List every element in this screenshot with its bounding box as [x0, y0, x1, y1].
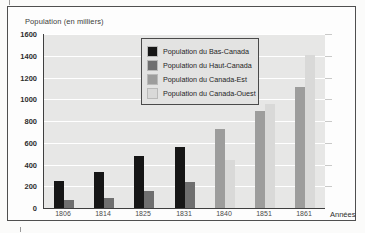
legend-label: Population du Canada-Ouest	[163, 89, 256, 98]
legend-item-canada-ouest: Population du Canada-Ouest	[148, 86, 252, 100]
bar	[104, 198, 114, 208]
legend: Population du Bas-Canada Population du H…	[141, 38, 259, 105]
y-tick-label: 200	[11, 183, 37, 190]
y-tick-label: 1200	[11, 75, 37, 82]
crop-mark-bottom	[20, 227, 21, 232]
x-tick-label: 1831	[167, 210, 201, 217]
right-tick	[325, 99, 332, 100]
chart-title: Population (en milliers)	[25, 17, 104, 26]
legend-label: Population du Haut-Canada	[163, 61, 252, 70]
right-tick	[325, 143, 332, 144]
y-tick-label: 800	[11, 118, 37, 125]
figure-box: Population (en milliers) 020040060080010…	[7, 6, 356, 221]
bar	[185, 182, 195, 208]
bar	[255, 111, 265, 208]
y-tick-label: 1000	[11, 96, 37, 103]
bar	[64, 200, 74, 208]
x-tick-label: 1825	[126, 210, 160, 217]
bar	[54, 181, 64, 208]
legend-swatch-haut-canada	[148, 61, 157, 70]
bar	[305, 55, 315, 208]
legend-item-canada-est: Population du Canada-Est	[148, 72, 252, 86]
gridline	[44, 121, 325, 122]
bar	[175, 147, 185, 208]
legend-swatch-canada-ouest	[148, 89, 157, 98]
x-tick-label: 1814	[86, 210, 120, 217]
legend-swatch-bas-canada	[148, 47, 157, 56]
right-tick	[325, 186, 332, 187]
y-tick-label: 1600	[11, 31, 37, 38]
x-tick-label: 1806	[46, 210, 80, 217]
x-tick-label: 1861	[287, 210, 321, 217]
y-tick-label: 1400	[11, 53, 37, 60]
y-tick-label: 400	[11, 162, 37, 169]
right-tick	[325, 78, 332, 79]
legend-swatch-canada-est	[148, 75, 157, 84]
x-tick-label: 1851	[247, 210, 281, 217]
bar	[134, 156, 144, 208]
gridline	[44, 34, 325, 35]
bar	[225, 160, 235, 208]
right-tick	[325, 165, 332, 166]
y-tick-label: 0	[11, 205, 37, 212]
bar	[144, 191, 154, 208]
legend-label: Population du Canada-Est	[163, 75, 247, 84]
bar	[295, 87, 305, 208]
right-tick	[325, 56, 332, 57]
bar	[215, 129, 225, 208]
x-tick-label: 1840	[207, 210, 241, 217]
x-axis-title: Années	[330, 210, 355, 219]
bar	[265, 104, 275, 208]
legend-item-bas-canada: Population du Bas-Canada	[148, 44, 252, 58]
y-tick-label: 600	[11, 140, 37, 147]
bar	[94, 172, 104, 208]
gridline	[44, 143, 325, 144]
legend-item-haut-canada: Population du Haut-Canada	[148, 58, 252, 72]
right-tick	[325, 34, 332, 35]
right-tick	[325, 121, 332, 122]
legend-label: Population du Bas-Canada	[163, 47, 249, 56]
crop-mark-top	[9, 0, 10, 5]
